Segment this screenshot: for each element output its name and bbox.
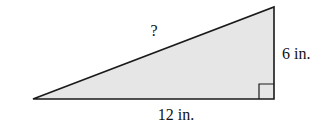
vertical-leg-label: 6 in.	[282, 45, 310, 62]
horizontal-leg-label: 12 in.	[158, 106, 194, 123]
right-triangle	[33, 7, 274, 99]
triangle-diagram: ? 6 in. 12 in.	[0, 0, 322, 124]
hypotenuse-label: ?	[150, 22, 157, 39]
